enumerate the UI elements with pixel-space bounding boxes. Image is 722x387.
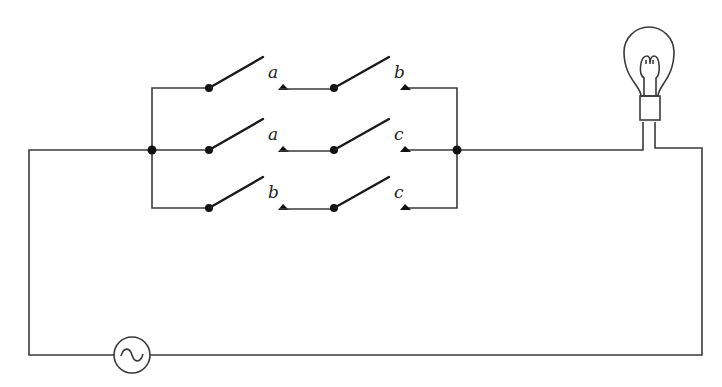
switch-label: b bbox=[268, 182, 279, 202]
left-bus bbox=[148, 88, 210, 208]
right-bus bbox=[405, 88, 462, 208]
circuit-diagram: a b a c b c bbox=[0, 0, 722, 387]
switch-blade[interactable] bbox=[209, 119, 263, 150]
switch-blade[interactable] bbox=[209, 177, 263, 208]
junction-right bbox=[453, 146, 462, 155]
switch-blade[interactable] bbox=[334, 119, 389, 150]
switch-label: a bbox=[268, 62, 278, 82]
light-bulb-icon bbox=[624, 27, 674, 120]
branch-middle: a c bbox=[205, 119, 411, 154]
junction-left bbox=[148, 146, 157, 155]
switch-label: c bbox=[394, 182, 404, 202]
outer-wiring bbox=[29, 122, 702, 355]
switch-label: a bbox=[268, 124, 278, 144]
switch-label: b bbox=[394, 62, 405, 82]
switch-blade[interactable] bbox=[209, 57, 263, 88]
branch-bottom: b c bbox=[205, 177, 411, 212]
ac-source-icon bbox=[114, 337, 150, 373]
branch-top: a b bbox=[205, 57, 411, 92]
switch-label: c bbox=[394, 124, 404, 144]
switch-blade[interactable] bbox=[334, 177, 389, 208]
switch-blade[interactable] bbox=[334, 57, 389, 88]
